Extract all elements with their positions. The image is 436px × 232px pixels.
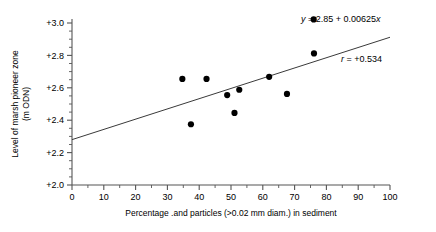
y-axis-title: Level of marsh pioneer zone(m ODN): [10, 50, 31, 158]
data-point: [179, 76, 185, 82]
data-point: [231, 110, 237, 116]
x-axis-tick-label: 100: [382, 192, 397, 202]
correlation-annotation: r = +0.534: [341, 54, 382, 64]
data-point: [188, 121, 194, 127]
data-point: [203, 76, 209, 82]
data-point: [224, 92, 230, 98]
y-axis-tick-label: +3.0: [46, 18, 64, 28]
chart-page: +2.0+2.2+2.4+2.6+2.8+3.00102030405060708…: [0, 0, 436, 232]
y-axis-tick-label: +2.8: [46, 51, 64, 61]
x-axis-tick-label: 0: [69, 192, 74, 202]
equation-annotation: y = 2.85 + 0.00625x: [300, 14, 381, 24]
equation-x-var: x: [375, 14, 381, 24]
regression-line: [72, 37, 390, 139]
equation-body: = 2.85 + 0.00625: [306, 14, 377, 24]
correlation-body: = +0.534: [344, 54, 382, 64]
data-point: [311, 50, 317, 56]
data-point: [266, 74, 272, 80]
y-axis-tick-label: +2.0: [46, 180, 64, 190]
x-axis-tick-label: 50: [226, 192, 236, 202]
y-axis-title-line2: (m ODN): [21, 87, 31, 121]
x-axis-tick-label: 80: [321, 192, 331, 202]
y-axis-tick-label: +2.6: [46, 83, 64, 93]
x-axis-tick-label: 90: [353, 192, 363, 202]
x-axis-tick-label: 40: [194, 192, 204, 202]
x-axis-tick-label: 20: [131, 192, 141, 202]
data-points-group: [179, 16, 317, 127]
y-axis-tick-label: +2.2: [46, 148, 64, 158]
y-axis-tick-label: +2.4: [46, 115, 64, 125]
data-point: [236, 87, 242, 93]
y-axis-title-line1: Level of marsh pioneer zone: [10, 50, 20, 158]
x-axis-tick-label: 10: [99, 192, 109, 202]
x-axis-title: Percentage .and particles (>0.02 mm diam…: [125, 208, 337, 218]
data-point: [284, 91, 290, 97]
x-axis-tick-label: 60: [258, 192, 268, 202]
x-axis-tick-label: 30: [162, 192, 172, 202]
x-axis-tick-label: 70: [290, 192, 300, 202]
scatter-plot: +2.0+2.2+2.4+2.6+2.8+3.00102030405060708…: [0, 0, 436, 232]
